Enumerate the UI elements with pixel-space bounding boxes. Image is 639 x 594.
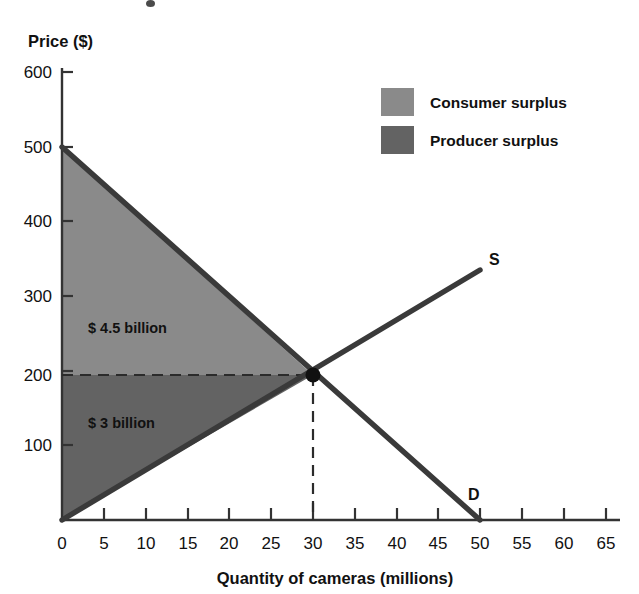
x-tick-label-50: 50 xyxy=(471,534,490,553)
x-tick-label-55: 55 xyxy=(513,534,532,553)
y-tick-label-400: 400 xyxy=(24,212,52,231)
x-tick-label-40: 40 xyxy=(388,534,407,553)
x-tick-label-15: 15 xyxy=(179,534,198,553)
x-tick-label-30: 30 xyxy=(304,534,323,553)
x-tick-label-35: 35 xyxy=(346,534,365,553)
chart-canvas: 600 500 400 300 200 100 0 5 10 15 20 25 xyxy=(0,0,639,594)
supply-curve-label: S xyxy=(489,251,500,268)
consumer-surplus-value-label: $ 4.5 billion xyxy=(88,320,167,336)
x-tick-label-25: 25 xyxy=(262,534,281,553)
legend-swatch-producer-surplus xyxy=(381,126,414,154)
x-tick-label-0: 0 xyxy=(57,534,66,553)
x-tick-label-45: 45 xyxy=(429,534,448,553)
equilibrium-point-marker xyxy=(306,368,321,383)
y-tick-label-500: 500 xyxy=(24,138,52,157)
y-tick-label-600: 600 xyxy=(24,63,52,82)
legend: Consumer surplus Producer surplus xyxy=(381,88,567,154)
y-tick-label-100: 100 xyxy=(24,436,52,455)
x-axis-ticks xyxy=(104,503,606,520)
x-tick-label-20: 20 xyxy=(220,534,239,553)
x-axis-title: Quantity of cameras (millions) xyxy=(217,569,454,587)
legend-swatch-consumer-surplus xyxy=(381,88,414,116)
x-tick-label-65: 65 xyxy=(597,534,616,553)
legend-label-producer-surplus: Producer surplus xyxy=(430,132,558,149)
y-tick-label-300: 300 xyxy=(24,287,52,306)
y-tick-label-200: 200 xyxy=(24,366,52,385)
y-axis-title: Price ($) xyxy=(28,32,93,50)
demand-curve-label: D xyxy=(468,486,480,503)
x-tick-label-5: 5 xyxy=(99,534,108,553)
x-tick-label-60: 60 xyxy=(555,534,574,553)
legend-label-consumer-surplus: Consumer surplus xyxy=(430,94,567,111)
producer-surplus-value-label: $ 3 billion xyxy=(88,415,155,431)
surplus-chart-figure: 600 500 400 300 200 100 0 5 10 15 20 25 xyxy=(0,0,639,594)
x-tick-label-10: 10 xyxy=(137,534,156,553)
